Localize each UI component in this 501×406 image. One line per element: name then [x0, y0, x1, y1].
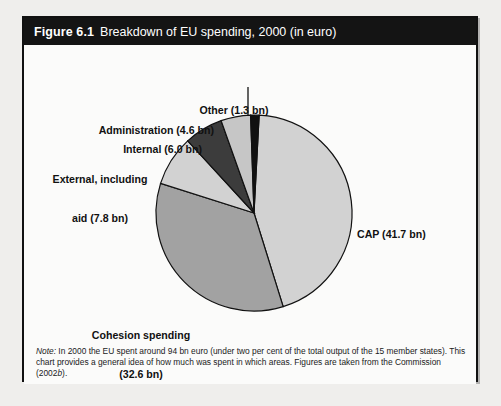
note-label: Note:: [36, 346, 56, 356]
pie-chart-area: Other (1.3 bn) Administration (4.6 bn) I…: [24, 45, 476, 384]
callout-cohesion-line1: Cohesion spending: [71, 329, 211, 342]
figure-number: Figure 6.1: [34, 25, 94, 39]
note-body-part1: In 2000 the EU spent around 94 bn euro (…: [36, 346, 465, 378]
callout-external: External, including aid (7.8 bn): [40, 147, 160, 251]
figure-frame: Figure 6.1 Breakdown of EU spending, 200…: [22, 16, 478, 382]
note-divider: [34, 337, 468, 338]
figure-note: Note: In 2000 the EU spent around 94 bn …: [36, 346, 466, 380]
callout-cap-line1: CAP (41.7 bn): [357, 228, 467, 241]
callout-cap: CAP (41.7 bn): [357, 202, 467, 267]
figure-title-bar: Figure 6.1 Breakdown of EU spending, 200…: [24, 18, 476, 45]
callout-external-line1: External, including: [40, 173, 160, 186]
callout-external-line2: aid (7.8 bn): [40, 212, 160, 225]
figure-title: Breakdown of EU spending, 2000 (in euro): [100, 25, 336, 39]
note-body-part2: ).: [62, 368, 67, 378]
